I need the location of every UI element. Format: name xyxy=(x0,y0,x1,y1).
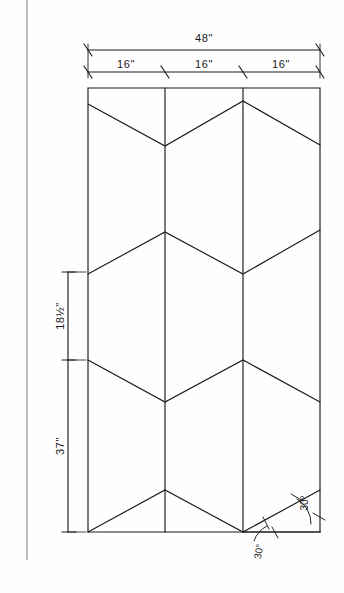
panel-outline xyxy=(88,88,320,532)
label-angle-lower-left: 30° xyxy=(252,543,265,560)
angle-tick-b-lower-right xyxy=(313,513,325,520)
chevron-line-4 xyxy=(88,490,320,532)
label-angle-lower-right: 30° xyxy=(299,495,310,510)
chevron-row-1 xyxy=(88,101,320,146)
label-segment-1: 16" xyxy=(117,58,135,70)
label-lower-height: 37" xyxy=(54,437,66,455)
technical-drawing-canvas: 48" 16" 16" 16" 18½" 37" 30° 30° xyxy=(0,0,344,593)
label-segment-2: 16" xyxy=(195,58,213,70)
label-upper-height: 18½" xyxy=(54,302,66,330)
chevron-row-3 xyxy=(88,360,320,402)
angle-arc-lower-left xyxy=(254,526,267,541)
label-segment-3: 16" xyxy=(272,58,290,70)
chevron-row-2 xyxy=(88,230,320,274)
chevron-line-2 xyxy=(88,230,320,274)
label-overall-width: 48" xyxy=(195,32,213,44)
chevron-panel-drawing: 48" 16" 16" 16" 18½" 37" 30° 30° xyxy=(0,0,344,593)
column-dividers xyxy=(165,88,243,532)
chevron-line-3 xyxy=(88,360,320,402)
chevron-line-1 xyxy=(88,101,320,146)
angle-mark-lower-left xyxy=(254,517,278,541)
chevron-row-4 xyxy=(88,490,320,532)
